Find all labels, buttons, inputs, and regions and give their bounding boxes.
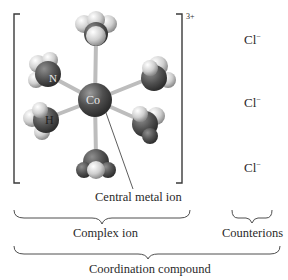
counterion-chloride-2: Cl− xyxy=(244,96,261,109)
chloride-charge: − xyxy=(256,95,261,104)
complex-charge: 3+ xyxy=(186,13,195,21)
complex-bracket-right xyxy=(176,14,182,183)
ligand-nh3-lower-right xyxy=(132,106,165,144)
counterions-brace xyxy=(232,210,272,223)
ligand-nh3-top xyxy=(75,11,117,46)
counterion-chloride-3: Cl− xyxy=(244,161,261,174)
central-metal-ion-label: Central metal ion xyxy=(95,191,182,204)
chloride-symbol: Cl xyxy=(244,160,256,175)
chloride-charge: − xyxy=(256,32,261,41)
ligand-nh3-upper-right xyxy=(141,56,176,91)
counterions-label: Counterions xyxy=(222,227,283,240)
chloride-symbol: Cl xyxy=(244,95,256,110)
complex-ion-brace xyxy=(14,210,190,224)
coordination-compound-brace xyxy=(14,246,280,259)
nitrogen-label: N xyxy=(49,73,57,84)
counterion-chloride-1: Cl− xyxy=(244,33,261,46)
complex-ion-label: Complex ion xyxy=(73,227,138,240)
cobalt-label: Co xyxy=(86,94,100,106)
chloride-symbol: Cl xyxy=(244,32,256,47)
complex-bracket-left xyxy=(14,14,20,183)
hydrogen-label: H xyxy=(45,114,54,126)
coordination-compound-diagram: Co N H 3+ Cl− Cl− Cl− Central metal ion … xyxy=(0,0,288,280)
chloride-charge: − xyxy=(256,160,261,169)
ligand-nh3-bottom xyxy=(76,149,116,179)
coordination-compound-label: Coordination compound xyxy=(89,263,211,276)
